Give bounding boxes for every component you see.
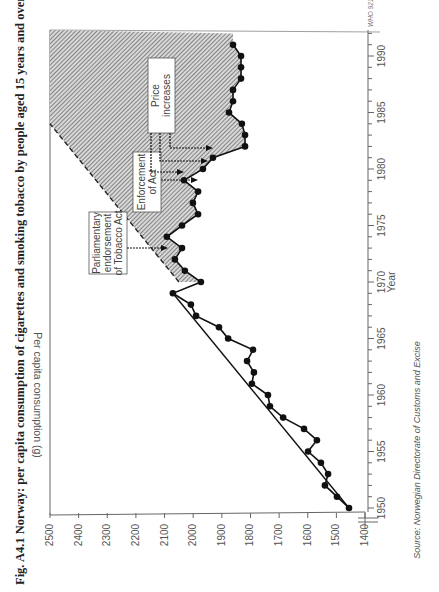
value-tick-label: 2100 xyxy=(159,523,170,546)
data-point xyxy=(179,222,186,229)
data-point xyxy=(200,166,207,173)
data-point xyxy=(195,211,202,218)
data-point xyxy=(251,369,258,376)
year-tick-label: 1965 xyxy=(376,327,387,350)
data-point xyxy=(238,64,245,71)
year-tick-label: 1975 xyxy=(376,214,387,237)
data-point xyxy=(249,380,256,387)
value-tick-label: 2200 xyxy=(130,523,141,546)
value-tick-label: 1600 xyxy=(302,523,313,546)
trend-line xyxy=(173,293,349,508)
value-axis-baseline xyxy=(50,512,365,515)
data-point xyxy=(193,313,200,320)
data-point xyxy=(226,109,233,116)
year-axis-title: Year xyxy=(385,271,397,293)
data-point xyxy=(230,98,237,105)
data-point xyxy=(346,505,353,512)
data-point xyxy=(267,403,274,410)
data-point xyxy=(322,482,329,489)
data-point xyxy=(242,143,249,150)
value-tick-label: 1500 xyxy=(330,523,341,546)
data-point xyxy=(334,493,341,500)
value-tick-label: 1700 xyxy=(273,523,284,546)
data-point xyxy=(238,53,245,60)
data-point xyxy=(242,132,249,139)
data-point xyxy=(225,335,232,342)
who-code: WHO 921060 xyxy=(367,0,374,27)
value-tick-label: 2000 xyxy=(187,523,198,546)
data-point xyxy=(216,324,223,331)
data-point xyxy=(179,245,186,252)
svg-text:of Tobacco Act: of Tobacco Act xyxy=(113,210,124,275)
svg-text:Parliamentary: Parliamentary xyxy=(91,212,102,274)
data-point xyxy=(238,75,245,82)
data-point xyxy=(239,121,246,128)
data-point xyxy=(250,347,257,354)
data-point xyxy=(265,392,272,399)
value-tick-label: 2500 xyxy=(44,523,55,546)
data-point xyxy=(314,437,321,444)
svg-text:increases: increases xyxy=(161,74,172,117)
figure-title: Fig. A4.1 Norway: per capita consumption… xyxy=(13,0,27,585)
year-tick-label: 1955 xyxy=(376,440,387,463)
year-tick-label: 1980 xyxy=(376,157,387,180)
data-point xyxy=(190,200,197,207)
value-tick-label: 2400 xyxy=(73,523,84,546)
chart-figure: Fig. A4.1 Norway: per capita consumption… xyxy=(0,0,439,592)
svg-text:Price: Price xyxy=(150,84,161,107)
year-tick-label: 1950 xyxy=(376,496,387,519)
svg-text:of Act: of Act xyxy=(147,169,158,194)
data-point xyxy=(230,87,237,94)
year-tick-label: 1960 xyxy=(376,383,387,406)
data-point xyxy=(164,234,171,241)
data-point xyxy=(195,188,202,195)
source-note: Source: Norwegian Directorate of Customs… xyxy=(412,341,422,559)
data-point xyxy=(182,267,189,274)
value-tick-label: 2300 xyxy=(101,523,112,546)
year-tick-label: 1990 xyxy=(376,44,387,67)
data-point xyxy=(301,426,308,433)
value-ticks: 1400150016001700180019002000210022002300… xyxy=(44,513,370,546)
data-point xyxy=(198,279,205,286)
data-point xyxy=(188,301,195,308)
data-point xyxy=(244,358,251,365)
svg-text:Enforcement: Enforcement xyxy=(136,153,147,210)
year-tick-label: 1985 xyxy=(376,101,387,124)
value-tick-label: 1900 xyxy=(216,523,227,546)
data-point xyxy=(230,41,237,48)
data-point xyxy=(280,414,287,421)
value-axis-title: Per capita consumption (g) xyxy=(32,332,44,457)
data-point xyxy=(318,460,325,467)
data-point xyxy=(325,471,332,478)
data-point xyxy=(210,154,217,161)
data-point xyxy=(305,448,312,455)
svg-text:endorsement: endorsement xyxy=(102,214,113,273)
data-point xyxy=(170,290,177,297)
value-tick-label: 1800 xyxy=(244,523,255,546)
data-point xyxy=(172,256,179,263)
